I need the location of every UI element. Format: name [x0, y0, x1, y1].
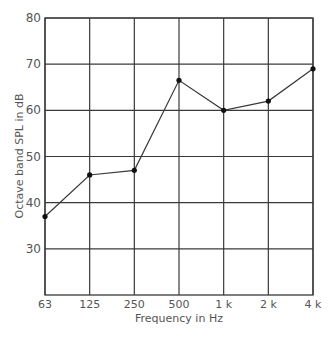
data-point-marker — [221, 108, 226, 113]
data-point-marker — [266, 99, 271, 104]
y-tick-label: 70 — [26, 57, 41, 71]
x-tick-label: 125 — [79, 298, 100, 311]
y-tick-label: 30 — [26, 242, 41, 256]
y-axis-label: Octave band SPL in dB — [13, 93, 26, 218]
y-axis-ticks: 304050607080 — [26, 11, 41, 256]
data-point-marker — [132, 168, 137, 173]
x-tick-label: 4 k — [305, 298, 322, 311]
x-tick-label: 63 — [38, 298, 52, 311]
data-point-marker — [87, 172, 92, 177]
x-tick-label: 500 — [169, 298, 190, 311]
octave-band-spl-chart: 304050607080 631252505001 k2 k4 k Freque… — [0, 0, 336, 337]
y-tick-label: 50 — [26, 150, 41, 164]
data-point-marker — [310, 66, 315, 71]
data-point-marker — [42, 214, 47, 219]
x-tick-label: 2 k — [260, 298, 277, 311]
data-point-marker — [176, 78, 181, 83]
x-tick-label: 1 k — [215, 298, 232, 311]
x-axis-label: Frequency in Hz — [135, 312, 223, 325]
y-tick-label: 60 — [26, 103, 41, 117]
grid — [45, 18, 313, 295]
y-tick-label: 80 — [26, 11, 41, 25]
chart-canvas: 304050607080 631252505001 k2 k4 k Freque… — [0, 0, 336, 337]
x-tick-label: 250 — [124, 298, 145, 311]
y-tick-label: 40 — [26, 196, 41, 210]
x-axis-ticks: 631252505001 k2 k4 k — [38, 298, 322, 311]
